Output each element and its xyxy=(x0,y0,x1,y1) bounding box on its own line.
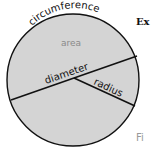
circle xyxy=(7,14,139,146)
circle-diagram: circumference area diameter radius xyxy=(0,0,151,148)
area-label: area xyxy=(61,38,81,48)
side-text-top: Ex xyxy=(136,16,150,27)
side-text-bottom: Fi xyxy=(136,132,144,143)
